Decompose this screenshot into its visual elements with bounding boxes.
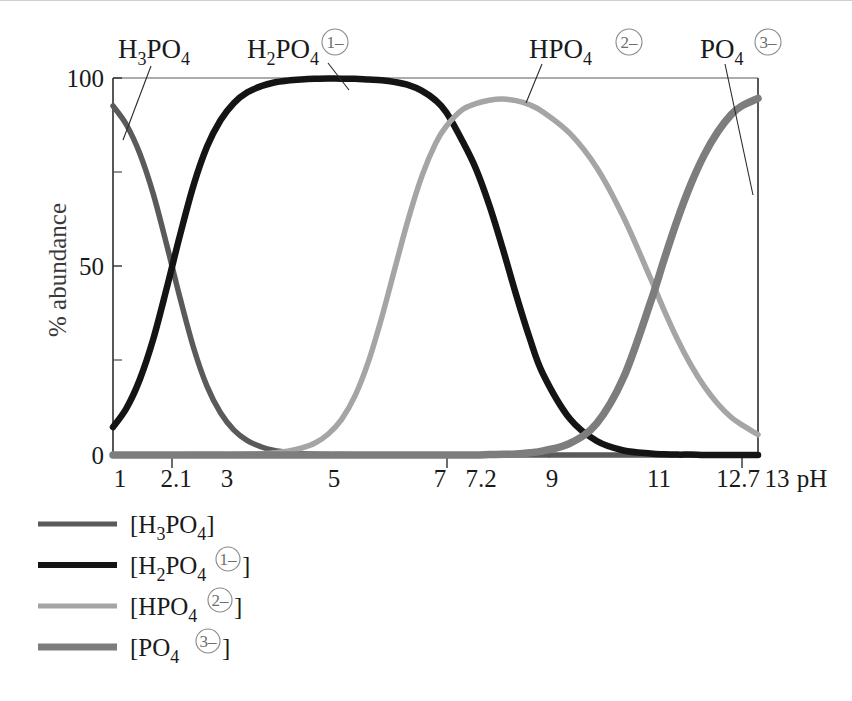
callout-hpo4-charge: 2– — [621, 33, 639, 52]
x-tick-label-3: 3 — [221, 465, 234, 492]
callout-hpo4: HPO4 2– — [526, 29, 642, 103]
legend-h2po4-charge: 1– — [220, 550, 238, 569]
callout-po4-leader — [725, 64, 753, 195]
y-tick-label-0: 0 — [92, 442, 105, 469]
legend-hpo4-charge: 2– — [212, 591, 230, 610]
x-tick-label-12.7: 12.7 — [716, 465, 760, 492]
y-axis-ticks — [113, 78, 122, 455]
legend-po4-charge: 3– — [200, 632, 218, 651]
speciation-figure: 100 50 0 % abundance 1 2.1 3 5 7 7.2 9 1… — [0, 0, 852, 701]
callout-h2po4-label: H2PO4 — [247, 34, 319, 69]
legend-label-po4: [PO4 — [130, 634, 179, 667]
legend-item-h3po4[interactable]: [H3PO4] — [38, 511, 215, 544]
callout-po4-label: PO4 — [700, 34, 744, 69]
legend-label-h2po4: [H2PO4 — [130, 552, 206, 585]
x-tick-label-11: 11 — [647, 465, 671, 492]
callout-h3po4-leader — [123, 66, 151, 140]
x-tick-label-1: 1 — [114, 465, 127, 492]
legend-item-po4[interactable]: [PO4 3– ] — [38, 629, 230, 667]
x-tick-label-7.2: 7.2 — [465, 465, 496, 492]
x-tick-label-9: 9 — [546, 465, 559, 492]
legend-label-h3po4: [H3PO4] — [130, 511, 215, 544]
callout-hpo4-label: HPO4 — [529, 34, 592, 69]
legend: [H3PO4] [H2PO4 1– ] [HPO4 2– ] — [38, 511, 250, 667]
legend-po4-close: ] — [222, 634, 230, 661]
y-tick-label-50: 50 — [79, 253, 104, 280]
legend-h2po4-close: ] — [242, 552, 250, 579]
y-tick-label-100: 100 — [67, 65, 105, 92]
callout-h3po4-label: H3PO4 — [118, 34, 190, 69]
legend-item-h2po4[interactable]: [H2PO4 1– ] — [38, 547, 250, 585]
callout-h2po4-charge: 1– — [327, 33, 345, 52]
x-tick-label-2.1: 2.1 — [160, 465, 191, 492]
legend-label-hpo4: [HPO4 — [130, 593, 197, 626]
legend-hpo4-close: ] — [234, 593, 242, 620]
x-tick-label-13: 13 — [765, 465, 790, 492]
legend-item-hpo4[interactable]: [HPO4 2– ] — [38, 588, 242, 626]
callout-hpo4-leader — [526, 64, 542, 103]
x-tick-label-7: 7 — [434, 465, 447, 492]
callout-po4: PO4 3– — [700, 29, 781, 195]
callout-po4-charge: 3– — [760, 33, 778, 52]
curve-po43- — [113, 98, 758, 455]
plot-svg: 100 50 0 % abundance 1 2.1 3 5 7 7.2 9 1… — [0, 0, 852, 701]
y-axis-title: % abundance — [44, 203, 71, 337]
curve-group — [113, 78, 758, 455]
x-axis-title: pH — [797, 465, 828, 492]
callout-h3po4: H3PO4 — [118, 34, 190, 140]
x-tick-label-5: 5 — [328, 465, 341, 492]
